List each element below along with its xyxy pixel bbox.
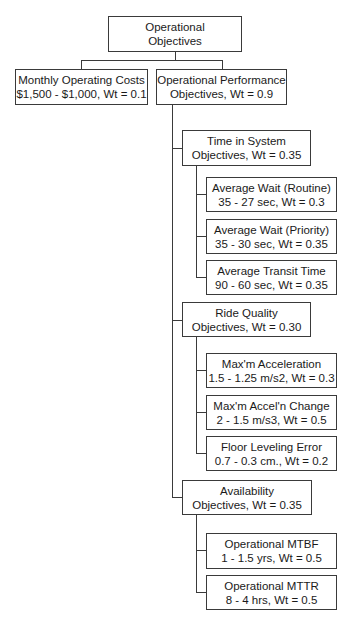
connector — [196, 453, 206, 454]
node-subtitle: 90 - 60 sec, Wt = 0.35 — [215, 278, 328, 292]
node-average-wait-priority: Average Wait (Priority) 35 - 30 sec, Wt … — [206, 219, 337, 254]
node-title: Max'm Acceleration — [222, 357, 321, 371]
connector — [196, 370, 206, 371]
connector — [196, 236, 206, 237]
node-operational-objectives: Operational Objectives — [108, 16, 242, 52]
node-subtitle: Objectives, Wt = 0.9 — [170, 87, 273, 101]
node-average-wait-routine: Average Wait (Routine) 35 - 27 sec, Wt =… — [206, 177, 337, 212]
node-subtitle: 2 - 1.5 m/s3, Wt = 0.5 — [216, 413, 326, 427]
node-operational-mtbf: Operational MTBF 1 - 1.5 yrs, Wt = 0.5 — [206, 533, 337, 569]
node-average-transit-time: Average Transit Time 90 - 60 sec, Wt = 0… — [206, 260, 337, 295]
connector — [172, 104, 173, 498]
node-title: Operational MTTR — [224, 579, 319, 593]
connector — [172, 148, 182, 149]
connector — [175, 51, 176, 60]
node-title: Max'm Accel'n Change — [213, 399, 329, 413]
node-title: Floor Leveling Error — [221, 440, 322, 454]
node-title: Operational Performance — [157, 73, 285, 87]
node-subtitle: Objectives — [148, 34, 202, 48]
connector — [196, 165, 197, 278]
node-title: Monthly Operating Costs — [18, 73, 145, 87]
node-subtitle: Objectives, Wt = 0.35 — [192, 498, 302, 512]
node-subtitle: 0.7 - 0.3 cm., Wt = 0.2 — [215, 454, 328, 468]
connector — [81, 60, 222, 61]
connector — [196, 194, 206, 195]
connector — [196, 515, 197, 593]
node-time-in-system: Time in System Objectives, Wt = 0.35 — [182, 130, 311, 166]
node-title: Time in System — [207, 134, 286, 148]
node-title: Ride Quality — [215, 306, 278, 320]
node-operational-mttr: Operational MTTR 8 - 4 hrs, Wt = 0.5 — [206, 575, 337, 610]
node-max-acceleration: Max'm Acceleration 1.5 - 1.25 m/s2, Wt =… — [206, 353, 337, 388]
node-floor-leveling-error: Floor Leveling Error 0.7 - 0.3 cm., Wt =… — [206, 436, 337, 471]
node-subtitle: 35 - 30 sec, Wt = 0.35 — [215, 237, 328, 251]
node-subtitle: 35 - 27 sec, Wt = 0.3 — [218, 195, 324, 209]
node-subtitle: 1.5 - 1.25 m/s2, Wt = 0.3 — [208, 371, 334, 385]
connector — [196, 277, 206, 278]
node-availability: Availability Objectives, Wt = 0.35 — [182, 480, 312, 515]
node-subtitle: 1 - 1.5 yrs, Wt = 0.5 — [221, 551, 322, 565]
node-title: Availability — [220, 484, 274, 498]
connector — [172, 320, 182, 321]
node-subtitle: Objectives, Wt = 0.30 — [192, 320, 302, 334]
node-max-acceleration-change: Max'm Accel'n Change 2 - 1.5 m/s3, Wt = … — [206, 395, 337, 430]
node-title: Operational — [145, 20, 204, 34]
connector — [196, 412, 206, 413]
node-monthly-operating-costs: Monthly Operating Costs $1,500 - $1,000,… — [15, 69, 148, 105]
node-title: Average Transit Time — [217, 264, 325, 278]
connector — [196, 336, 197, 454]
connector — [222, 60, 223, 69]
node-title: Operational MTBF — [225, 537, 319, 551]
node-subtitle: Objectives, Wt = 0.35 — [192, 148, 302, 162]
node-title: Average Wait (Priority) — [214, 223, 329, 237]
connector — [196, 592, 206, 593]
connector — [196, 550, 206, 551]
node-title: Average Wait (Routine) — [212, 181, 331, 195]
connector — [172, 497, 182, 498]
connector — [81, 60, 82, 69]
node-subtitle: $1,500 - $1,000, Wt = 0.1 — [16, 87, 146, 101]
node-operational-performance: Operational Performance Objectives, Wt =… — [156, 69, 287, 105]
node-ride-quality: Ride Quality Objectives, Wt = 0.30 — [182, 302, 311, 337]
node-subtitle: 8 - 4 hrs, Wt = 0.5 — [226, 593, 318, 607]
